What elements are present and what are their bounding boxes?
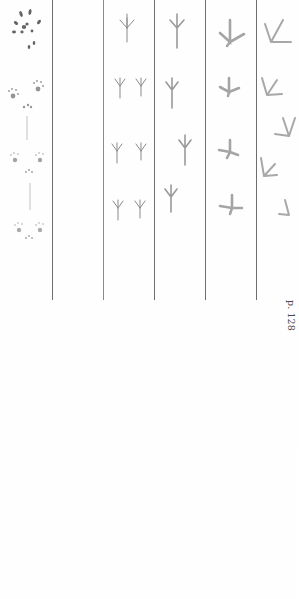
goose-footprint-icon [257,0,299,300]
track-column-ruffed-grouse [206,0,256,300]
track-column-blank [53,0,103,300]
grouse-footprint-icon [206,0,256,300]
species-label-canada-goose: Canada Goose p. 128 [286,300,297,370]
track-column-dusky-shrew [0,0,52,300]
junco-footprint-icon [104,0,154,300]
track-column-common-raven [155,0,205,300]
track-column-dark-eyed-junco [104,0,154,300]
track-column-canada-goose [257,0,299,300]
shrew-footprint-icon [0,0,52,300]
raven-footprint-icon [155,0,205,300]
page-reference: p. 128 [0,300,297,599]
